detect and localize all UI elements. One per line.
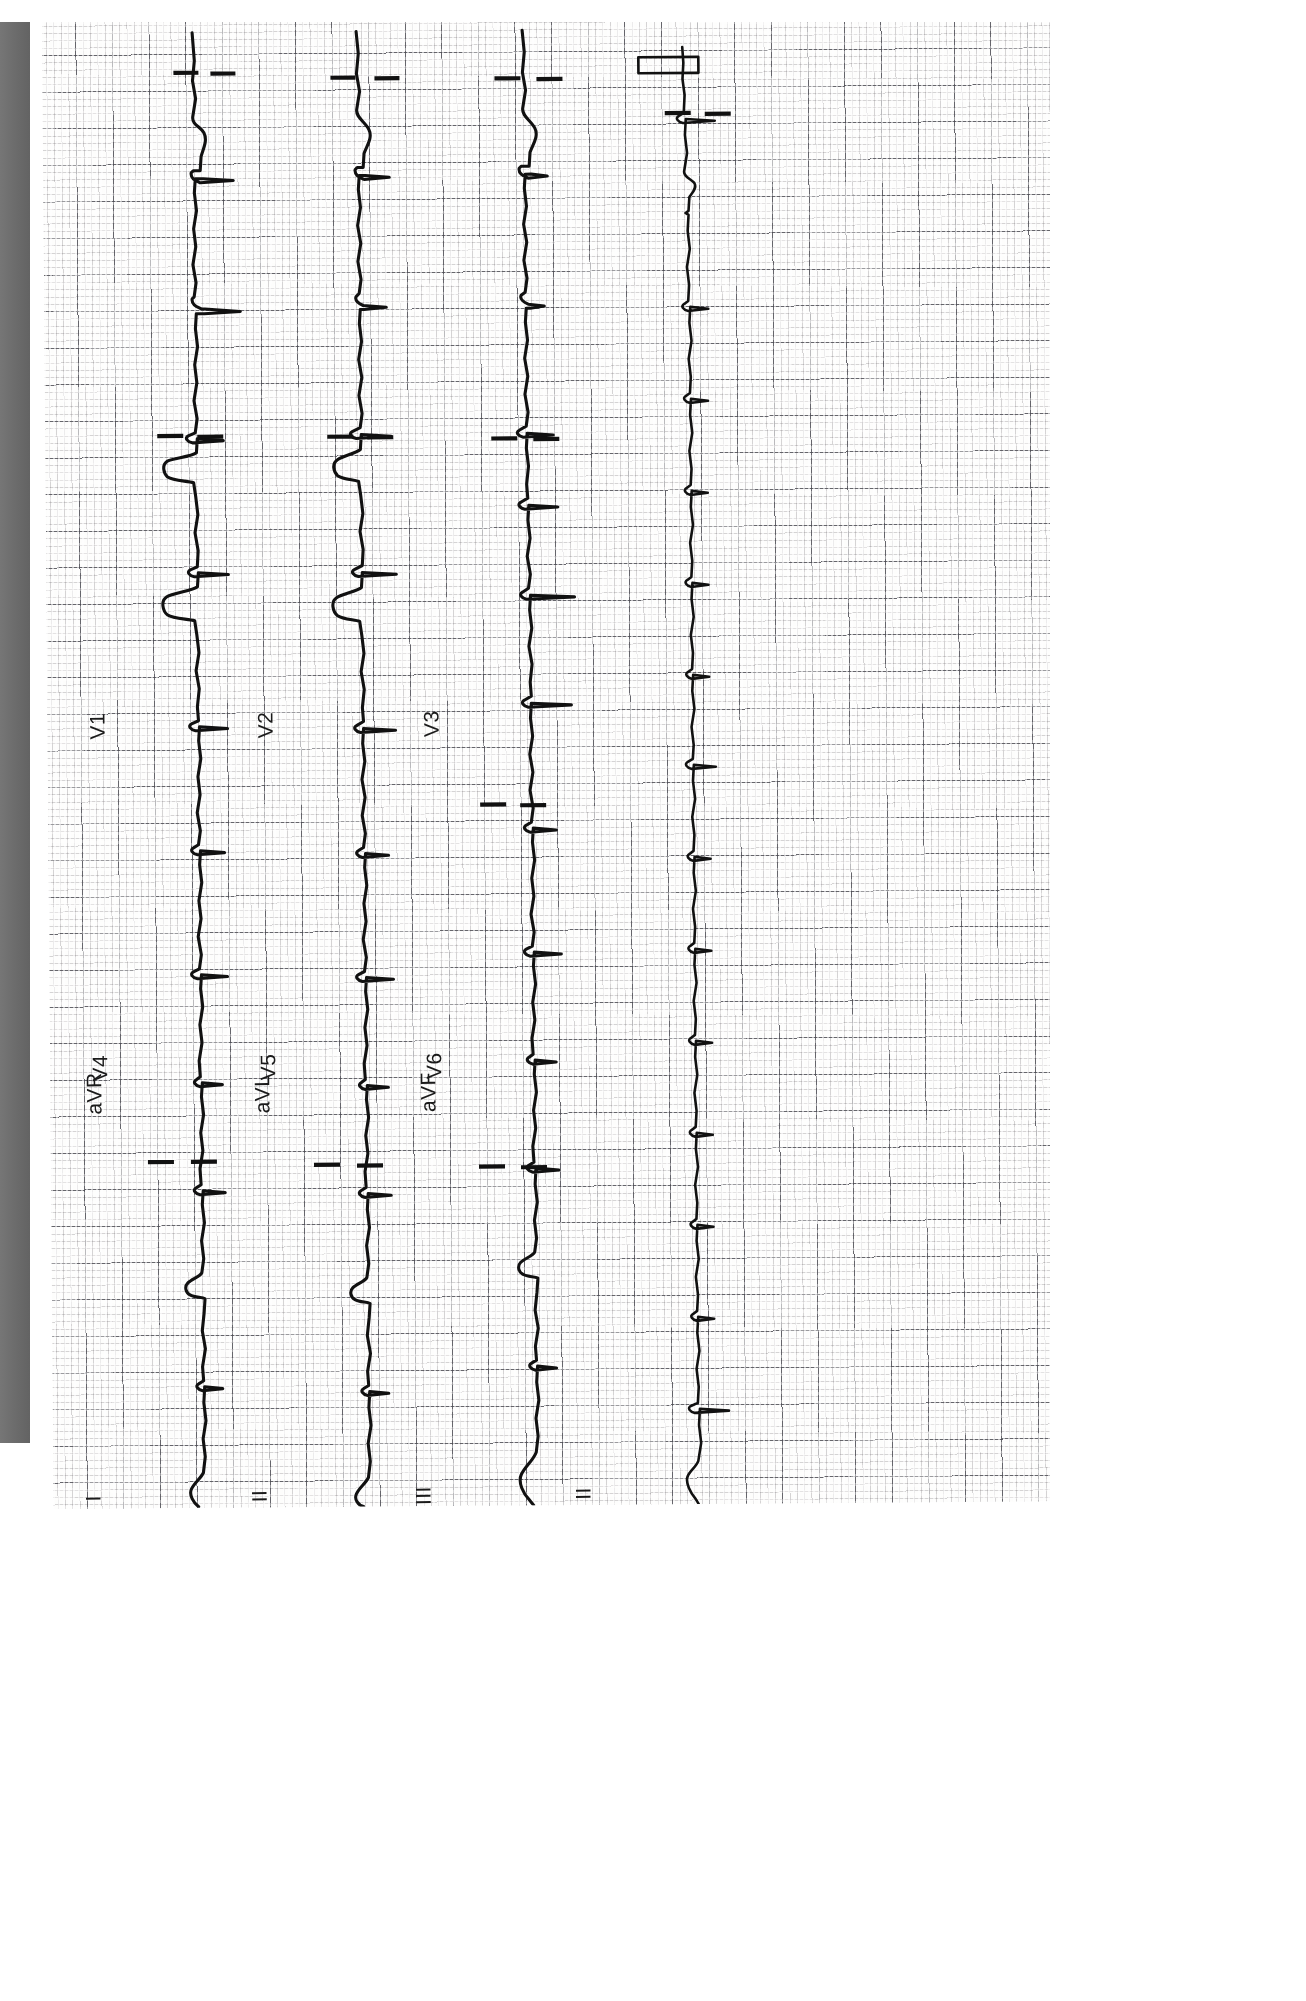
label-lead-V2: V2 — [253, 712, 277, 739]
trace-group-column-1 — [139, 32, 250, 1507]
photo-gutter-top — [0, 0, 1306, 22]
ecg-trace-canvas — [42, 14, 1062, 1509]
trace-group-column-4-rhythm — [638, 47, 741, 1505]
trace-rhythm-strip-lead-II-body — [676, 47, 730, 1504]
trace-group-column-2 — [305, 31, 411, 1507]
label-lead-II: II — [248, 1490, 272, 1503]
caption-strip-shading — [0, 0, 30, 1443]
label-lead-III: III — [412, 1486, 436, 1505]
label-lead-aVF: aVF — [416, 1072, 440, 1112]
caption-strip: anterior MI 5 years ago — [0, 0, 30, 1443]
photo-gutter-bottom — [0, 1512, 1306, 2001]
calibration-marks-column-1 — [139, 72, 244, 1162]
ecg-paper: V4 V5 V6 V1 V2 V3 aVR aVL aVF I II III I… — [42, 14, 1062, 1509]
trace-lead-V5-V2-aVL-II — [328, 31, 403, 1506]
label-lead-V1: V1 — [85, 713, 109, 740]
trace-lead-V4-V1-aVR-I — [158, 32, 249, 1507]
ecg-traces — [42, 14, 1062, 1509]
label-lead-V3: V3 — [419, 710, 443, 737]
trace-rhythm-strip-lead-II — [638, 57, 698, 73]
calibration-marks-column-4 — [665, 113, 731, 115]
label-lead-I: I — [82, 1495, 106, 1501]
trace-group-column-3 — [470, 30, 582, 1506]
label-lead-aVR: aVR — [82, 1072, 106, 1114]
label-lead-II-rhythm: II — [572, 1487, 596, 1500]
trace-lead-V6-V3-aVF-III — [509, 30, 582, 1505]
calibration-marks-column-3 — [470, 78, 571, 1168]
ecg-scan-page: anterior MI 5 years ago — [0, 0, 1306, 2001]
label-lead-aVL: aVL — [250, 1075, 274, 1114]
